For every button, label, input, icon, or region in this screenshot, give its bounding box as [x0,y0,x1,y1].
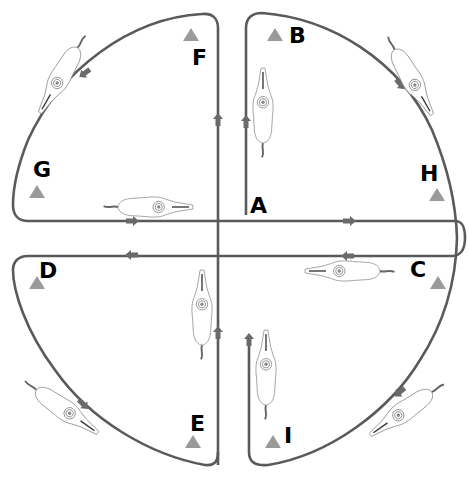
horses [19,30,449,443]
cone-icon-i [265,435,281,448]
horse-icon-e-straight [192,270,212,359]
horse-icon-g-straight [104,197,193,217]
cones [29,28,446,448]
marker-h: H [420,163,438,185]
cone-icon-h [429,188,445,201]
horse-icon-i-straight [256,330,276,419]
marker-i: I [284,425,292,447]
cone-icon-c [430,276,446,289]
arrow-up-icon [213,113,223,126]
marker-c: C [410,259,426,281]
marker-f: F [192,47,207,69]
arrow-up-icon [244,333,254,346]
cone-icon-f [183,28,199,41]
direction-arrows [75,65,408,412]
arena-pattern-diagram [0,0,469,478]
cone-icon-g [29,185,45,198]
cone-icon-e [185,435,201,448]
horse-icon-c-straight [305,261,394,281]
marker-a: A [250,195,267,217]
marker-b: B [289,25,306,47]
arrow-right-icon [343,216,356,226]
track-quadrant-bh [246,13,457,238]
arrow-left-icon [125,250,138,260]
arrow-up-icon [241,115,251,128]
marker-g: G [33,159,51,181]
arrow-right-icon [126,216,139,226]
cone-icon-b [267,28,283,41]
horse-icon-de-arc [19,373,104,441]
marker-e: E [190,413,205,435]
horse-icon-bh-arc [379,32,441,119]
arrow-up-icon [213,326,223,339]
horse-icon-b-straight [253,68,273,157]
marker-d: D [39,260,57,282]
arrow-left-icon [341,251,354,261]
arrow-down-left-icon [76,65,92,81]
